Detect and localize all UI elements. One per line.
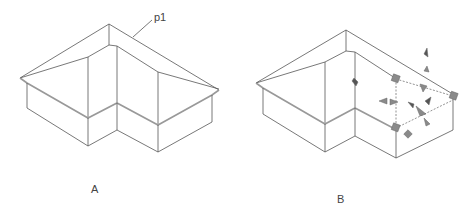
roof-diagram [0,0,474,214]
figure-a-roof [20,20,219,152]
grips[interactable] [352,48,458,138]
caption-a: A [91,183,98,195]
callout-p1: p1 [154,11,166,23]
grip-bottom [391,123,400,132]
grip-top-left [391,74,400,83]
figure-b-roof [256,30,456,158]
p1-leader-line [133,20,152,37]
caption-b: B [337,193,344,205]
